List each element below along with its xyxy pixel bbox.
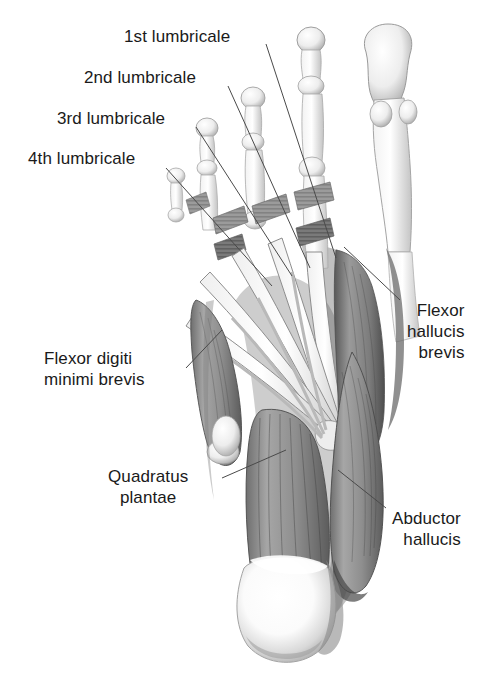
label-abductor-hallucis: Abductor hallucis	[392, 508, 461, 550]
anatomy-figure: 1st lumbricale2nd lumbricale3rd lumbrica…	[0, 0, 503, 694]
label-flexor-hallucis-brevis: Flexor hallucis brevis	[407, 300, 465, 363]
label-quadratus-plantae: Quadratus plantae	[108, 466, 188, 508]
